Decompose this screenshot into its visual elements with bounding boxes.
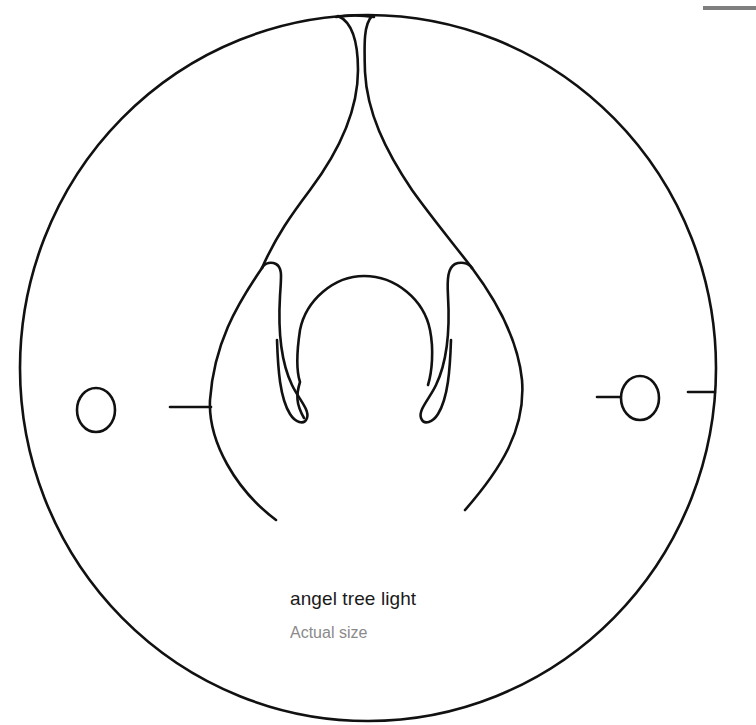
template-size-note: Actual size	[290, 624, 367, 642]
angel-body-right	[465, 268, 522, 510]
angel-neck-left	[262, 16, 358, 268]
angel-template-drawing	[0, 0, 756, 725]
outer-circle	[20, 15, 716, 721]
angel-neck-right	[365, 16, 472, 268]
left-hanging-hole	[77, 388, 115, 432]
angel-left-arm	[262, 263, 307, 423]
angel-head-arch	[297, 276, 432, 418]
right-hanging-hole	[621, 376, 659, 420]
angel-body-left	[210, 268, 276, 520]
template-title: angel tree light	[290, 588, 416, 610]
angel-neck-bridge	[336, 16, 374, 18]
angel-right-arm	[421, 263, 472, 423]
